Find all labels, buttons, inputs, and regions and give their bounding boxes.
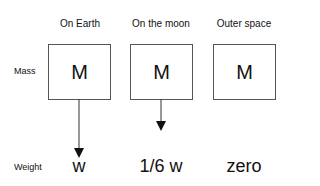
arrow-moon (156, 99, 166, 131)
weight-value-moon: 1/6 w (121, 156, 201, 177)
weight-value-earth: w (39, 156, 119, 177)
arrow-earth (74, 99, 84, 158)
weight-value-space: zero (204, 156, 284, 177)
